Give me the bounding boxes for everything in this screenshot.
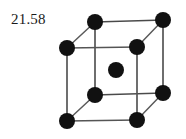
atom-front-top-left [59,40,75,56]
atom-front-bottom-right [129,112,145,128]
atom-front-top-right [129,39,145,55]
atom-front-bottom-left [59,113,75,129]
edge-back-bottom [95,93,163,95]
atom-back-top-right [155,12,171,28]
atom-back-bottom-left [87,87,103,103]
edge-back-top [95,20,163,22]
atom-back-top-left [87,14,103,30]
atom-back-bottom-right [155,85,171,101]
edge-front-bottom [67,120,137,121]
figure-root: 21.58 [0,0,186,139]
edge-front-top [67,47,137,48]
bcc-unit-cell-diagram [0,0,186,139]
atom-body-center [108,62,124,78]
